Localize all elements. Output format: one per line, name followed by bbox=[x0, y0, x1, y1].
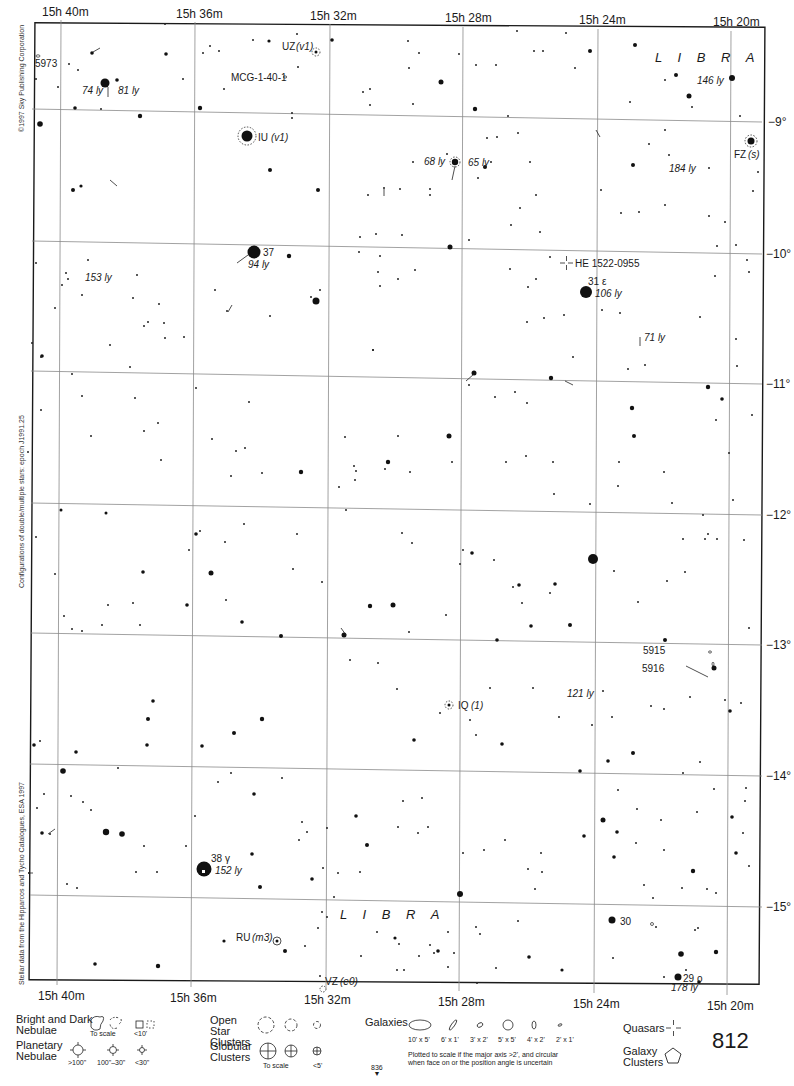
star-atlas-chart: 15h 40m 15h 36m 15h 32m 15h 28m 15h 24m … bbox=[0, 0, 794, 1086]
fz-type-label: (s) bbox=[748, 149, 760, 160]
vz-label: VZ bbox=[325, 976, 338, 987]
uz-label: UZ bbox=[282, 41, 295, 52]
constellation-label-libra: L I B R A bbox=[340, 907, 445, 922]
ra-label: 15h 20m bbox=[713, 15, 760, 29]
dec-label: −11° bbox=[766, 377, 790, 391]
distance-label: 74 ly bbox=[82, 85, 104, 96]
data-source-note: Stellar data from the Hipparcos and Tych… bbox=[18, 782, 26, 985]
iq-label: IQ bbox=[458, 700, 469, 711]
legend-galaxy-size: 2' x 1' bbox=[556, 1036, 574, 1043]
legend-planetary-title: Planetary Nebulae bbox=[16, 1040, 76, 1062]
ra-label: 15h 40m bbox=[38, 989, 85, 1003]
fz-label: FZ bbox=[734, 149, 746, 160]
legend-galaxy-size: 10' x 5' bbox=[408, 1036, 430, 1043]
star-dot bbox=[448, 704, 451, 707]
star-dot bbox=[315, 51, 318, 54]
distance-label: 65 ly bbox=[468, 157, 490, 168]
legend-globular-to-scale: To scale bbox=[263, 1062, 289, 1069]
galaxy-icon bbox=[651, 923, 654, 926]
ra-label: 15h 24m bbox=[573, 997, 620, 1011]
legend-galaxy-size: 3' x 2' bbox=[470, 1036, 488, 1043]
distance-label: 68 ly bbox=[424, 156, 446, 167]
chart-frame bbox=[29, 23, 765, 984]
distance-label: 146 ly bbox=[697, 75, 725, 86]
legend-galaxy-clusters-title: Galaxy Clusters bbox=[623, 1046, 663, 1068]
distance-label: 178 ly bbox=[671, 982, 699, 993]
mcg-label: MCG-1-40-1 bbox=[231, 72, 287, 83]
legend-galaxy-note-1: Plotted to scale if the major axis >2', … bbox=[408, 1051, 558, 1058]
pentagon-icon bbox=[663, 1046, 683, 1066]
ra-label: 15h 32m bbox=[310, 9, 357, 23]
legend-galaxy-size: 6' x 1' bbox=[441, 1036, 459, 1043]
ra-label: 15h 28m bbox=[445, 11, 492, 25]
iu-type-label: (v1) bbox=[271, 132, 288, 143]
vz-type-label: (e0) bbox=[340, 976, 358, 987]
copyright-text: ©1997 Sky Publishing Corporation bbox=[18, 25, 26, 132]
legend-galaxy-size: 5' x 5' bbox=[498, 1036, 516, 1043]
distance-label: 152 ly bbox=[215, 865, 243, 876]
double-star-marker bbox=[202, 870, 205, 873]
ra-label: 15h 36m bbox=[176, 7, 223, 21]
distance-label: 106 ly bbox=[595, 288, 623, 299]
distance-label: 94 ly bbox=[248, 259, 270, 270]
galaxy-size-icons bbox=[408, 1016, 588, 1034]
legend: Bright and Dark Nebulae To scale <10' Pl… bbox=[0, 1012, 794, 1086]
ra-label: 15h 40m bbox=[42, 5, 89, 19]
ra-label: 15h 24m bbox=[579, 13, 626, 27]
epoch-note: Configurations of double/multiple stars:… bbox=[18, 415, 26, 588]
galaxy-icon bbox=[712, 662, 714, 666]
down-arrow-icon: ▼ bbox=[371, 1071, 383, 1077]
open-cluster-icons bbox=[256, 1012, 326, 1038]
ru-label: RU bbox=[236, 932, 250, 943]
dec-labels-right: −9° −10° −11° −12° −13° −14° −15° bbox=[766, 115, 791, 914]
legend-nebulae-to-scale: To scale bbox=[90, 1030, 116, 1037]
ra-label: 15h 32m bbox=[304, 993, 351, 1007]
legend-nebulae-small: <10' bbox=[134, 1030, 147, 1037]
dec-label: −14° bbox=[766, 769, 791, 783]
quasar-legend-icon bbox=[665, 1019, 683, 1037]
ru-type-label: (m3) bbox=[252, 932, 273, 943]
ngc-5973-label: 5973 bbox=[35, 58, 58, 69]
dec-label: −10° bbox=[766, 247, 791, 261]
quasar-icon bbox=[560, 256, 573, 270]
ra-grid bbox=[57, 20, 731, 995]
quasar-he-label: HE 1522-0955 bbox=[575, 258, 640, 269]
legend-globular-small: <5' bbox=[313, 1062, 322, 1069]
globular-cluster-icons bbox=[256, 1038, 326, 1064]
distance-label: 71 ly bbox=[644, 332, 666, 343]
continuation-page-link[interactable]: 836 ▼ bbox=[371, 1064, 383, 1077]
dec-label: −9° bbox=[768, 115, 787, 129]
ra-labels-bottom: 15h 40m 15h 36m 15h 32m 15h 28m 15h 24m … bbox=[38, 989, 754, 1013]
ngc-5916-label: 5916 bbox=[642, 663, 665, 674]
legend-quasars-title: Quasars bbox=[623, 1023, 665, 1034]
legend-globular-title: Globular Clusters bbox=[210, 1041, 260, 1063]
galaxy-markers bbox=[36, 55, 714, 926]
galaxy-icon bbox=[36, 55, 40, 57]
legend-nebulae-title: Bright and Dark Nebulae bbox=[16, 1014, 96, 1036]
dec-label: −15° bbox=[766, 900, 791, 914]
legend-planetary-size: <30" bbox=[135, 1059, 149, 1066]
stars-bright bbox=[60, 79, 754, 981]
legend-planetary-size: 100"–30" bbox=[97, 1059, 125, 1066]
dec-label: −13° bbox=[766, 638, 791, 652]
star-37-label: 37 bbox=[263, 247, 275, 258]
legend-galaxy-size: 4' x 2' bbox=[527, 1036, 545, 1043]
galaxy-icon bbox=[709, 651, 712, 653]
dec-label: −12° bbox=[766, 508, 791, 522]
ra-label: 15h 36m bbox=[170, 991, 217, 1005]
constellation-label-libra: L I B R A bbox=[655, 50, 760, 65]
star-31-label: 31 ε bbox=[588, 276, 607, 287]
iq-type-label: (1) bbox=[471, 700, 483, 711]
motion-vectors bbox=[28, 48, 708, 873]
stars-faint bbox=[27, 23, 759, 984]
legend-galaxies-title: Galaxies bbox=[365, 1017, 408, 1028]
variable-star-rings bbox=[238, 48, 757, 992]
distance-label: 81 ly bbox=[118, 85, 140, 96]
star-dot bbox=[276, 940, 279, 943]
star-38-label: 38 γ bbox=[211, 853, 230, 864]
ra-label: 15h 20m bbox=[707, 999, 754, 1013]
uz-type-label: (v1) bbox=[296, 41, 313, 52]
ra-label: 15h 28m bbox=[438, 995, 485, 1009]
distance-label: 153 ly bbox=[85, 272, 113, 283]
object-labels: 5973 74 ly 81 ly UZ (v1) MCG-1-40-1 IU (… bbox=[35, 41, 760, 993]
